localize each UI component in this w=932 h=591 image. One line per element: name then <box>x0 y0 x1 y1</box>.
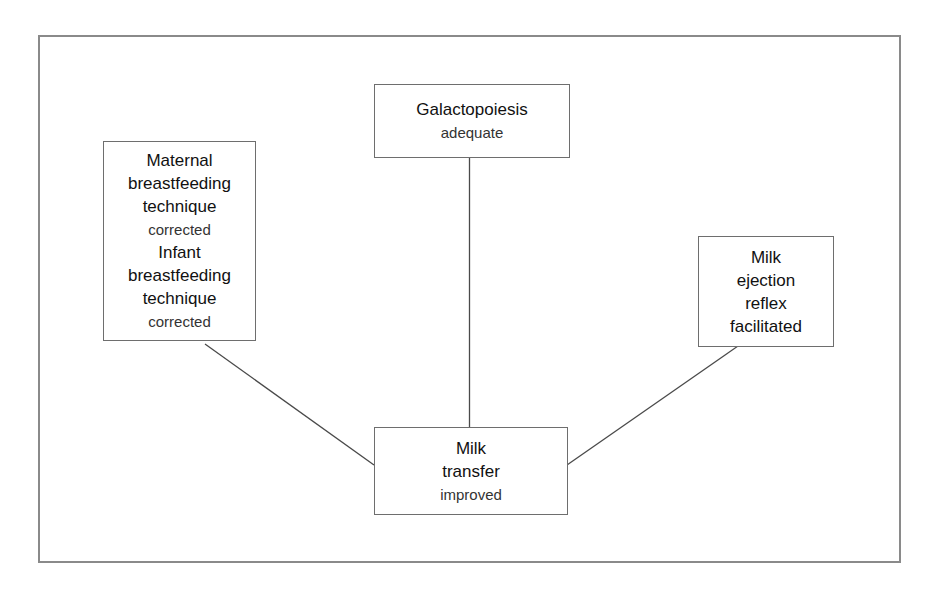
edge-technique-to-transfer <box>205 344 374 465</box>
node-status: improved <box>440 483 502 506</box>
node-title: transfer <box>442 460 500 483</box>
node-status: corrected <box>148 218 211 241</box>
node-title: technique <box>143 195 217 218</box>
node-title: Milk <box>456 437 486 460</box>
node-status: adequate <box>441 121 504 144</box>
node-title: breastfeeding <box>128 264 231 287</box>
node-title: Infant <box>158 241 201 264</box>
node-title: technique <box>143 287 217 310</box>
node-title: Milk <box>751 246 781 269</box>
node-title: facilitated <box>730 315 802 338</box>
node-title: Maternal <box>146 149 212 172</box>
node-galactopoiesis: Galactopoiesis adequate <box>374 84 570 158</box>
node-title: ejection <box>737 269 796 292</box>
node-status: corrected <box>148 310 211 333</box>
node-title: Galactopoiesis <box>416 98 528 121</box>
node-breastfeeding-technique: Maternal breastfeeding technique correct… <box>103 141 256 341</box>
edge-ejection-to-transfer <box>567 346 738 465</box>
node-title: breastfeeding <box>128 172 231 195</box>
node-milk-ejection-reflex: Milk ejection reflex facilitated <box>698 236 834 347</box>
node-milk-transfer: Milk transfer improved <box>374 427 568 515</box>
node-title: reflex <box>745 292 787 315</box>
